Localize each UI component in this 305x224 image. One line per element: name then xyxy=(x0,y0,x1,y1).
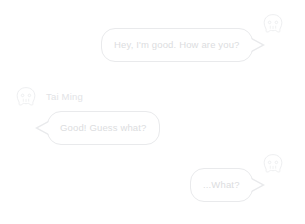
message-bubble-incoming[interactable]: Good! Guess what? xyxy=(47,111,160,145)
face-avatar-icon xyxy=(14,86,38,110)
avatar[interactable] xyxy=(14,86,38,110)
message-text: ...What? xyxy=(191,180,252,190)
sender-name: Tai Ming xyxy=(46,92,83,102)
bubble-tail-right-fill-icon xyxy=(251,39,262,51)
chat-conversation: Hey, I'm good. How are you? Tai Ming xyxy=(0,0,305,224)
face-avatar-icon xyxy=(261,13,285,37)
message-bubble-outgoing[interactable]: Hey, I'm good. How are you? xyxy=(101,28,253,62)
face-avatar-icon xyxy=(261,153,285,177)
bubble-tail-left-fill-icon xyxy=(38,122,49,134)
avatar[interactable] xyxy=(261,153,285,177)
message-bubble-outgoing[interactable]: ...What? xyxy=(190,168,253,202)
message-text: Good! Guess what? xyxy=(48,123,159,133)
message-text: Hey, I'm good. How are you? xyxy=(102,40,252,50)
avatar[interactable] xyxy=(261,13,285,37)
bubble-tail-right-fill-icon xyxy=(251,179,262,191)
